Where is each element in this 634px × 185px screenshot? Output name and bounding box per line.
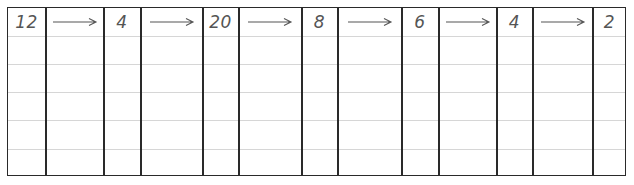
arrow-right-icon <box>46 8 103 36</box>
number-cell: 4 <box>497 8 532 36</box>
number-cell: 2 <box>593 8 626 36</box>
number-cell: 12 <box>8 8 45 36</box>
arrow-right-icon <box>239 8 301 36</box>
worksheet-table: 12 4 20 8 6 4 2 <box>7 7 626 176</box>
arrow-right-icon <box>338 8 401 36</box>
number-cell: 6 <box>402 8 438 36</box>
arrow-right-icon <box>439 8 496 36</box>
arrow-right-icon <box>141 8 202 36</box>
number-cell: 20 <box>203 8 238 36</box>
number-cell: 8 <box>302 8 337 36</box>
number-cell: 4 <box>104 8 140 36</box>
arrow-right-icon <box>533 8 592 36</box>
